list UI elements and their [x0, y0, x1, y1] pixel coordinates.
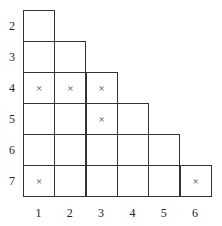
column-label: 1	[23, 206, 54, 221]
grid-cell	[54, 134, 86, 166]
grid-cell	[117, 165, 149, 197]
grid-cell: ×	[180, 165, 212, 197]
grid-cell	[117, 103, 149, 135]
column-label: 5	[148, 206, 179, 221]
row-label: 4	[6, 81, 18, 96]
column-label: 6	[180, 206, 211, 221]
grid-cell: ×	[54, 72, 86, 104]
grid-cell	[23, 10, 55, 42]
grid-cell	[54, 41, 86, 73]
row-label: 6	[6, 143, 18, 158]
grid-cell: ×	[23, 72, 55, 104]
grid-cell	[54, 103, 86, 135]
grid-cell	[117, 134, 149, 166]
grid-cell: ×	[86, 72, 118, 104]
grid-cell	[86, 165, 118, 197]
grid-cell	[23, 134, 55, 166]
grid-cell	[23, 103, 55, 135]
column-label: 2	[54, 206, 85, 221]
grid-cell	[23, 41, 55, 73]
grid-cell	[148, 165, 180, 197]
row-label: 3	[6, 50, 18, 65]
column-label: 4	[117, 206, 148, 221]
row-label: 7	[6, 174, 18, 189]
grid-cell: ×	[86, 103, 118, 135]
row-label: 5	[6, 112, 18, 127]
grid-cell	[54, 165, 86, 197]
grid-cell	[148, 134, 180, 166]
row-label: 2	[6, 19, 18, 34]
column-label: 3	[86, 206, 117, 221]
grid-cell	[86, 134, 118, 166]
grid-cell: ×	[23, 165, 55, 197]
